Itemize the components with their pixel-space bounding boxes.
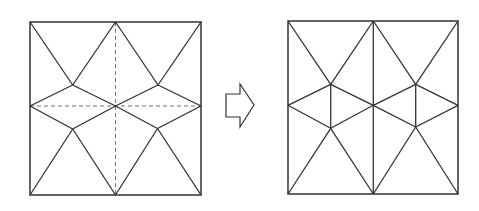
crease-line bbox=[116, 85, 159, 106]
crease-line bbox=[416, 127, 458, 194]
crease-line bbox=[331, 105, 374, 128]
crease-line bbox=[288, 128, 331, 194]
crease-line bbox=[116, 22, 159, 85]
crease-line bbox=[116, 106, 158, 129]
crease-line bbox=[73, 106, 116, 129]
crease-line bbox=[373, 84, 415, 105]
crease-line bbox=[288, 105, 331, 128]
crease-line bbox=[30, 22, 73, 85]
right-arrow-icon bbox=[226, 84, 254, 127]
crease-line bbox=[30, 129, 73, 195]
folding-diagram bbox=[0, 0, 479, 211]
crease-line bbox=[416, 105, 458, 127]
crease-line bbox=[331, 21, 374, 84]
crease-line bbox=[331, 128, 374, 194]
crease-line bbox=[331, 84, 374, 105]
crease-line bbox=[30, 85, 73, 106]
crease-line bbox=[116, 129, 158, 196]
crease-line bbox=[158, 85, 201, 106]
left-square-figure bbox=[30, 22, 201, 195]
crease-line bbox=[416, 21, 458, 84]
crease-line bbox=[288, 21, 331, 84]
crease-line bbox=[73, 85, 116, 106]
crease-line bbox=[73, 22, 116, 85]
crease-line bbox=[373, 127, 415, 194]
crease-line bbox=[30, 106, 73, 129]
crease-line bbox=[73, 129, 116, 195]
right-square-figure bbox=[288, 21, 458, 194]
crease-line bbox=[158, 129, 202, 196]
crease-line bbox=[416, 84, 458, 105]
crease-line bbox=[373, 21, 415, 84]
crease-line bbox=[158, 22, 201, 85]
crease-line bbox=[158, 106, 202, 129]
crease-line bbox=[288, 84, 331, 105]
crease-line bbox=[373, 105, 415, 127]
